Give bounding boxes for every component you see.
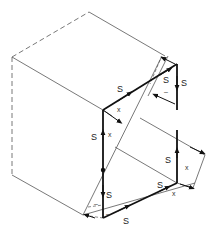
label-x-bottom-lip: x [172,190,176,197]
label-s-top-lip-a: S [163,75,169,85]
hidden-edges [12,12,89,175]
label-s-bottom-flange-a: S [123,216,129,226]
label-dash-bottom-b: – [106,210,110,217]
label-dash-top-lip: – [164,88,168,95]
label-s-right-lip: S [165,155,171,165]
label-x-right-lip: x [185,164,189,171]
label-x-web-upper: x [108,131,112,138]
shear-flow-diagram: S S S S S S S S x x x x – – – [0,0,213,234]
label-x-top-flange: x [117,106,121,113]
label-s-top-lip-b: S [181,78,187,88]
label-s-web-lower: S [106,190,112,200]
label-s-web-upper: S [91,132,97,142]
label-s-top-flange: S [117,84,123,94]
label-s-bottom-flange-b: S [157,180,163,190]
junction-dot [101,168,105,172]
label-dash-bottom-a: – [94,200,98,207]
